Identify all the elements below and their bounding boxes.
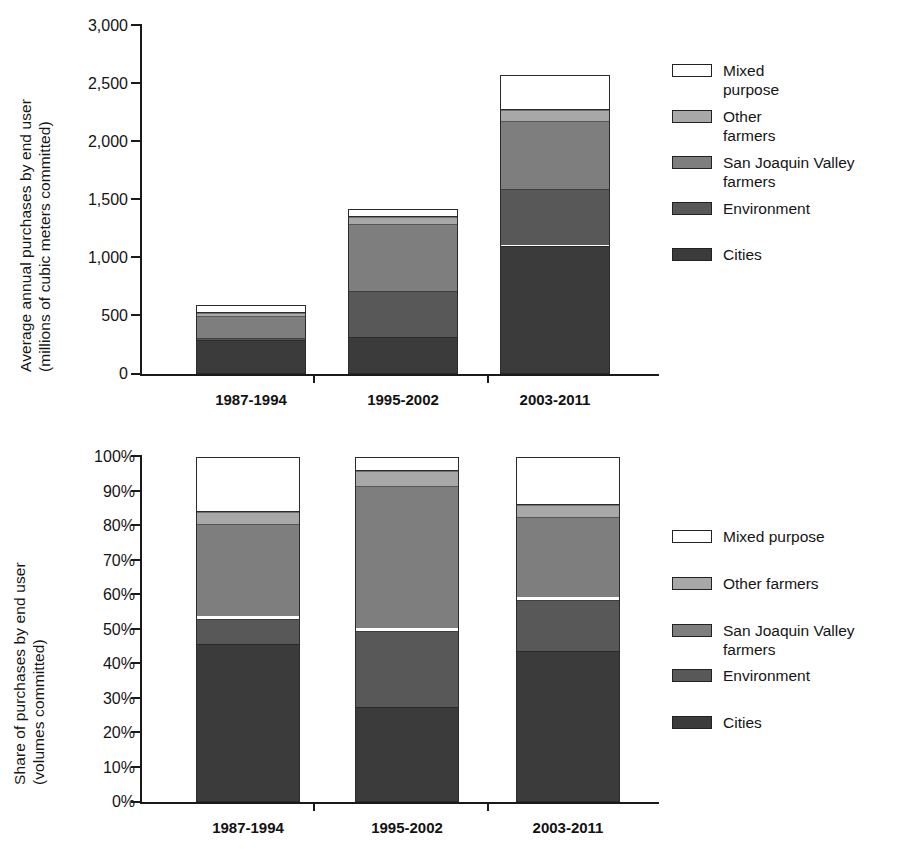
bottom-bar-2003-2011[interactable] xyxy=(516,457,620,802)
bottom-bar2-seg-other-farmers[interactable] xyxy=(355,471,459,487)
bottom-ytick-mark-100 xyxy=(131,455,140,457)
top-legend-item-san-joaquin-valley-farmers[interactable]: San Joaquin Valley farmers xyxy=(672,154,855,191)
top-y-title-line1: Average annual purchases by end user xyxy=(16,12,35,372)
top-ytick-mark-1000 xyxy=(131,256,140,258)
bottom-xtick-label-1987-1994: 1987-1994 xyxy=(178,819,318,836)
bottom-y-axis-line xyxy=(140,455,142,803)
bottom-legend-item-san-joaquin-valley-farmers[interactable]: San Joaquin Valley farmers xyxy=(672,622,855,659)
bottom-chart-legend: Mixed purpose Other farmers San Joaquin … xyxy=(672,528,915,748)
bottom-ytick-50: 50% xyxy=(55,622,135,638)
bottom-bar-1987-1994[interactable] xyxy=(196,457,300,802)
bottom-ytick-mark-60 xyxy=(131,593,140,595)
bottom-bar3-seg-other-farmers[interactable] xyxy=(516,505,620,517)
bottom-y-title-line1: Share of purchases by end user xyxy=(10,455,29,785)
top-bar3-seg-environment[interactable] xyxy=(500,189,610,246)
top-legend-item-mixed-purpose[interactable]: Mixed purpose xyxy=(672,62,779,99)
bottom-bar2-seg-san-joaquin-valley-farmers[interactable] xyxy=(355,486,459,628)
top-legend-item-environment[interactable]: Environment xyxy=(672,200,810,219)
bottom-ytick-mark-0 xyxy=(131,801,140,803)
top-legend-label-san-joaquin-valley-farmers: San Joaquin Valley farmers xyxy=(723,154,855,191)
legend-swatch-mixed-purpose-icon xyxy=(672,64,712,77)
top-bar3-seg-cities[interactable] xyxy=(500,246,610,375)
bottom-bar3-seg-environment[interactable] xyxy=(516,600,620,651)
top-bar2-seg-other-farmers[interactable] xyxy=(348,217,458,224)
bottom-xtick-label-2003-2011: 2003-2011 xyxy=(498,819,638,836)
top-ytick-2500: 2,500 xyxy=(50,76,128,92)
bottom-x-axis-line xyxy=(140,802,659,804)
legend-swatch-other-farmers-icon xyxy=(672,577,712,590)
bottom-legend-item-mixed-purpose[interactable]: Mixed purpose xyxy=(672,528,825,547)
bottom-y-title-line2: (volumes committed) xyxy=(29,455,48,785)
bottom-xtick-mark-2 xyxy=(487,803,489,811)
top-bar3-seg-mixed-purpose[interactable] xyxy=(500,75,610,110)
bottom-ytick-0: 0% xyxy=(55,794,135,810)
bottom-bar1-seg-environment[interactable] xyxy=(196,619,300,645)
bottom-legend-label-other-farmers: Other farmers xyxy=(723,575,819,594)
top-ytick-mark-1500 xyxy=(131,198,140,200)
bottom-bar1-seg-other-farmers[interactable] xyxy=(196,512,300,524)
top-xtick-label-1987-1994: 1987-1994 xyxy=(181,391,321,408)
legend-swatch-cities-icon xyxy=(672,248,712,261)
bottom-bar2-seg-mixed-purpose[interactable] xyxy=(355,457,459,471)
bottom-bar1-seg-mixed-purpose[interactable] xyxy=(196,457,300,512)
bottom-ytick-90: 90% xyxy=(55,484,135,500)
top-ytick-mark-500 xyxy=(131,314,140,316)
top-ytick-mark-2000 xyxy=(131,140,140,142)
bottom-legend-label-cities: Cities xyxy=(723,714,762,733)
legend-swatch-environment-icon xyxy=(672,669,712,682)
top-xtick-label-2003-2011: 2003-2011 xyxy=(485,391,625,408)
bottom-ytick-70: 70% xyxy=(55,553,135,569)
top-bar2-seg-san-joaquin-valley-farmers[interactable] xyxy=(348,224,458,291)
top-legend-item-other-farmers[interactable]: Other farmers xyxy=(672,108,776,145)
top-chart-y-axis-title: Average annual purchases by end user (mi… xyxy=(16,12,54,372)
bottom-bar3-seg-san-joaquin-valley-farmers[interactable] xyxy=(516,517,620,596)
top-legend-label-cities: Cities xyxy=(723,246,762,265)
bottom-bar2-seg-cities[interactable] xyxy=(355,707,459,802)
bottom-bar3-seg-cities[interactable] xyxy=(516,651,620,802)
bottom-xtick-label-1995-2002: 1995-2002 xyxy=(337,819,477,836)
top-legend-item-cities[interactable]: Cities xyxy=(672,246,762,265)
bottom-ytick-100: 100% xyxy=(55,449,135,465)
bottom-bar2-seg-environment[interactable] xyxy=(355,631,459,707)
bottom-ytick-30: 30% xyxy=(55,691,135,707)
top-bar-1987-1994[interactable] xyxy=(196,305,306,374)
top-bar1-seg-cities[interactable] xyxy=(196,340,306,374)
top-bar3-seg-other-farmers[interactable] xyxy=(500,110,610,122)
legend-swatch-san-joaquin-valley-farmers-icon xyxy=(672,624,712,637)
top-chart-panel: Average annual purchases by end user (mi… xyxy=(0,0,915,425)
legend-swatch-other-farmers-icon xyxy=(672,110,712,123)
bottom-legend-item-environment[interactable]: Environment xyxy=(672,667,810,686)
bottom-ytick-mark-70 xyxy=(131,559,140,561)
bottom-ytick-mark-20 xyxy=(131,731,140,733)
legend-swatch-mixed-purpose-icon xyxy=(672,530,712,543)
top-bar1-seg-san-joaquin-valley-farmers[interactable] xyxy=(196,316,306,338)
top-ytick-1500: 1,500 xyxy=(50,192,128,208)
bottom-ytick-10: 10% xyxy=(55,760,135,776)
bottom-legend-label-san-joaquin-valley-farmers: San Joaquin Valley farmers xyxy=(723,622,855,659)
bottom-bar1-seg-cities[interactable] xyxy=(196,644,300,802)
bottom-bar3-seg-mixed-purpose[interactable] xyxy=(516,457,620,505)
top-bar-1995-2002[interactable] xyxy=(348,209,458,374)
top-legend-label-mixed-purpose: Mixed purpose xyxy=(723,62,779,99)
top-bar1-seg-mixed-purpose[interactable] xyxy=(196,305,306,313)
top-bar2-seg-mixed-purpose[interactable] xyxy=(348,209,458,217)
bottom-ytick-mark-80 xyxy=(131,524,140,526)
bottom-bar-1995-2002[interactable] xyxy=(355,457,459,802)
top-x-axis-line xyxy=(140,374,659,376)
top-xtick-mark-2 xyxy=(487,375,489,383)
legend-swatch-environment-icon xyxy=(672,202,712,215)
top-ytick-0: 0 xyxy=(50,366,128,382)
top-ytick-mark-2500 xyxy=(131,82,140,84)
bottom-ytick-20: 20% xyxy=(55,725,135,741)
bottom-bar1-seg-san-joaquin-valley-farmers[interactable] xyxy=(196,524,300,615)
top-bar2-seg-cities[interactable] xyxy=(348,337,458,374)
top-y-axis-line xyxy=(140,24,142,376)
top-bar3-seg-san-joaquin-valley-farmers[interactable] xyxy=(500,121,610,188)
top-bar-2003-2011[interactable] xyxy=(500,75,610,374)
bottom-ytick-mark-90 xyxy=(131,490,140,492)
top-bar2-seg-environment[interactable] xyxy=(348,291,458,336)
bottom-ytick-mark-50 xyxy=(131,628,140,630)
bottom-ytick-80: 80% xyxy=(55,518,135,534)
bottom-legend-item-other-farmers[interactable]: Other farmers xyxy=(672,575,819,594)
bottom-legend-item-cities[interactable]: Cities xyxy=(672,714,762,733)
